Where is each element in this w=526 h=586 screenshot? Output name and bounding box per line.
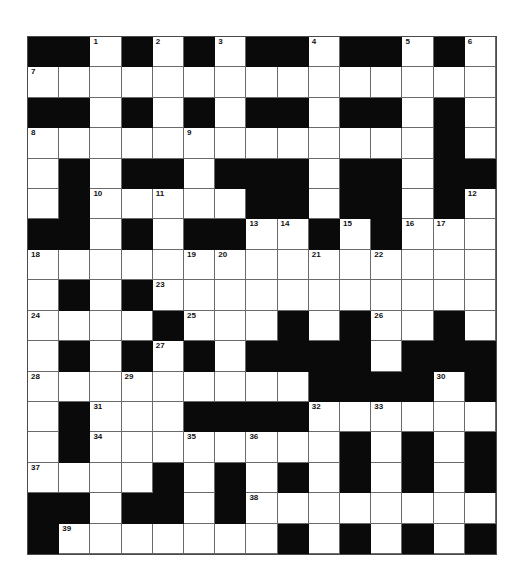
crossword-cell[interactable] <box>90 67 121 97</box>
crossword-cell[interactable] <box>309 280 340 310</box>
crossword-cell[interactable] <box>465 250 496 280</box>
crossword-cell[interactable]: 34 <box>90 432 121 462</box>
crossword-cell[interactable] <box>28 189 59 219</box>
crossword-cell[interactable] <box>28 280 59 310</box>
crossword-cell[interactable] <box>90 219 121 249</box>
crossword-cell[interactable] <box>371 341 402 371</box>
crossword-cell[interactable] <box>184 189 215 219</box>
crossword-cell[interactable] <box>371 524 402 554</box>
crossword-cell[interactable]: 14 <box>278 219 309 249</box>
crossword-cell[interactable]: 1 <box>90 37 121 67</box>
crossword-cell[interactable] <box>153 98 184 128</box>
crossword-cell[interactable]: 2 <box>153 37 184 67</box>
crossword-cell[interactable]: 15 <box>340 219 371 249</box>
crossword-cell[interactable] <box>59 67 90 97</box>
crossword-cell[interactable] <box>402 280 433 310</box>
crossword-cell[interactable] <box>246 311 277 341</box>
crossword-cell[interactable] <box>153 67 184 97</box>
crossword-cell[interactable] <box>402 67 433 97</box>
crossword-cell[interactable] <box>215 311 246 341</box>
crossword-cell[interactable] <box>309 189 340 219</box>
crossword-cell[interactable] <box>309 311 340 341</box>
crossword-cell[interactable]: 29 <box>122 372 153 402</box>
crossword-cell[interactable]: 3 <box>215 37 246 67</box>
crossword-cell[interactable]: 22 <box>371 250 402 280</box>
crossword-cell[interactable] <box>153 524 184 554</box>
crossword-cell[interactable] <box>246 67 277 97</box>
crossword-cell[interactable] <box>184 463 215 493</box>
crossword-cell[interactable] <box>465 311 496 341</box>
crossword-cell[interactable]: 6 <box>465 37 496 67</box>
crossword-cell[interactable] <box>122 402 153 432</box>
crossword-cell[interactable] <box>122 250 153 280</box>
crossword-cell[interactable] <box>90 128 121 158</box>
crossword-cell[interactable] <box>90 159 121 189</box>
crossword-cell[interactable] <box>90 98 121 128</box>
crossword-cell[interactable] <box>434 432 465 462</box>
crossword-cell[interactable]: 30 <box>434 372 465 402</box>
crossword-cell[interactable] <box>434 67 465 97</box>
crossword-cell[interactable]: 19 <box>184 250 215 280</box>
crossword-cell[interactable]: 37 <box>28 463 59 493</box>
crossword-cell[interactable] <box>215 98 246 128</box>
crossword-cell[interactable] <box>28 432 59 462</box>
crossword-cell[interactable] <box>90 493 121 523</box>
crossword-cell[interactable] <box>340 128 371 158</box>
crossword-cell[interactable] <box>434 493 465 523</box>
crossword-cell[interactable]: 39 <box>59 524 90 554</box>
crossword-cell[interactable] <box>153 432 184 462</box>
crossword-cell[interactable]: 11 <box>153 189 184 219</box>
crossword-cell[interactable] <box>465 219 496 249</box>
crossword-cell[interactable]: 18 <box>28 250 59 280</box>
crossword-cell[interactable] <box>340 402 371 432</box>
crossword-cell[interactable] <box>246 524 277 554</box>
crossword-cell[interactable] <box>309 463 340 493</box>
crossword-cell[interactable] <box>90 463 121 493</box>
crossword-cell[interactable] <box>122 311 153 341</box>
crossword-cell[interactable] <box>278 250 309 280</box>
crossword-cell[interactable] <box>215 432 246 462</box>
crossword-cell[interactable] <box>122 463 153 493</box>
crossword-cell[interactable]: 35 <box>184 432 215 462</box>
crossword-cell[interactable] <box>309 432 340 462</box>
crossword-cell[interactable] <box>215 128 246 158</box>
crossword-cell[interactable] <box>59 372 90 402</box>
crossword-cell[interactable]: 7 <box>28 67 59 97</box>
crossword-cell[interactable] <box>309 98 340 128</box>
crossword-cell[interactable] <box>465 128 496 158</box>
crossword-cell[interactable] <box>90 524 121 554</box>
crossword-cell[interactable] <box>59 311 90 341</box>
crossword-cell[interactable]: 26 <box>371 311 402 341</box>
crossword-cell[interactable]: 27 <box>153 341 184 371</box>
crossword-cell[interactable] <box>215 189 246 219</box>
crossword-cell[interactable] <box>340 493 371 523</box>
crossword-cell[interactable] <box>90 250 121 280</box>
crossword-cell[interactable] <box>184 493 215 523</box>
crossword-cell[interactable]: 25 <box>184 311 215 341</box>
crossword-cell[interactable] <box>465 493 496 523</box>
crossword-cell[interactable] <box>28 402 59 432</box>
crossword-cell[interactable] <box>309 159 340 189</box>
crossword-cell[interactable] <box>246 372 277 402</box>
crossword-cell[interactable] <box>402 250 433 280</box>
crossword-cell[interactable] <box>434 280 465 310</box>
crossword-cell[interactable] <box>402 159 433 189</box>
crossword-cell[interactable] <box>122 128 153 158</box>
crossword-cell[interactable] <box>215 524 246 554</box>
crossword-cell[interactable]: 31 <box>90 402 121 432</box>
crossword-cell[interactable] <box>184 67 215 97</box>
crossword-cell[interactable] <box>246 128 277 158</box>
crossword-cell[interactable] <box>184 280 215 310</box>
crossword-cell[interactable] <box>28 341 59 371</box>
crossword-cell[interactable]: 5 <box>402 37 433 67</box>
crossword-cell[interactable] <box>153 219 184 249</box>
crossword-cell[interactable] <box>59 250 90 280</box>
crossword-cell[interactable] <box>465 280 496 310</box>
crossword-cell[interactable] <box>278 67 309 97</box>
crossword-cell[interactable] <box>246 250 277 280</box>
crossword-cell[interactable] <box>90 280 121 310</box>
crossword-cell[interactable]: 10 <box>90 189 121 219</box>
crossword-cell[interactable] <box>402 189 433 219</box>
crossword-cell[interactable] <box>309 128 340 158</box>
crossword-cell[interactable]: 4 <box>309 37 340 67</box>
